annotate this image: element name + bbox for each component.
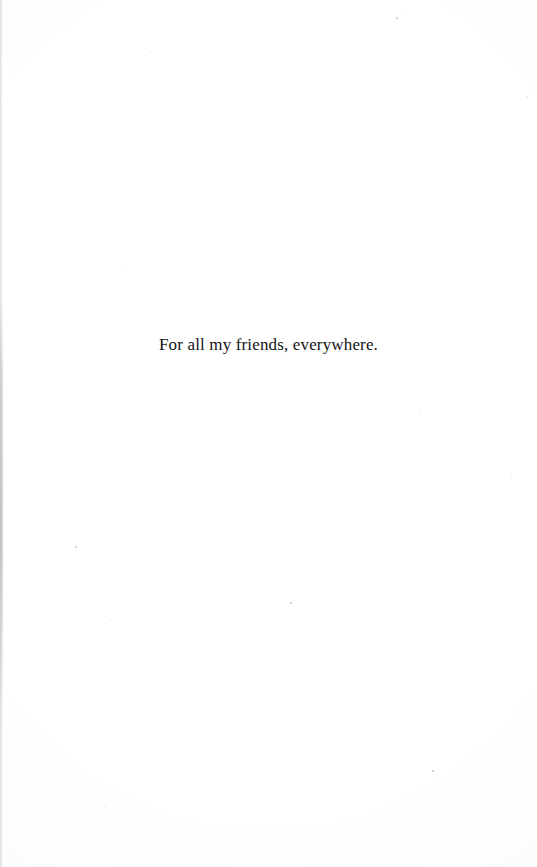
scan-speck — [527, 96, 528, 97]
scan-speck — [396, 17, 398, 19]
paper-texture — [0, 0, 537, 867]
scan-speck — [121, 266, 122, 267]
scan-speck — [105, 806, 106, 807]
scan-speck — [420, 409, 421, 410]
scan-speck — [75, 546, 77, 548]
scan-speck — [110, 620, 111, 621]
scan-speck — [150, 51, 151, 52]
scan-speck — [290, 602, 292, 604]
scan-gutter-band — [0, 300, 3, 730]
scan-speck — [402, 13, 403, 14]
scan-speck — [511, 477, 512, 478]
scan-speck — [58, 826, 59, 827]
scan-speck — [432, 770, 434, 772]
dedication-page: For all my friends, everywhere. — [0, 0, 537, 867]
scan-gutter-shadow — [0, 0, 4, 867]
dedication-text: For all my friends, everywhere. — [0, 335, 537, 355]
